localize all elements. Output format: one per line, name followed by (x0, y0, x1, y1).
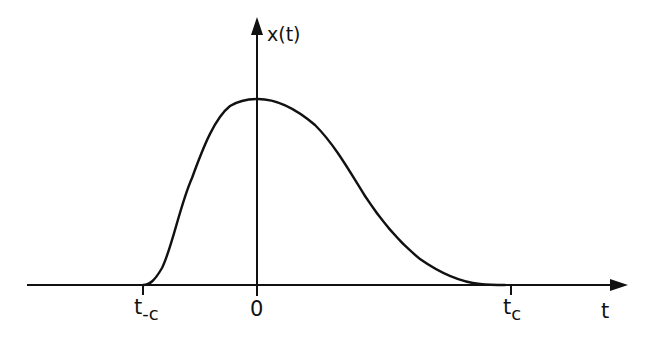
tick-label-zero: 0 (250, 297, 263, 321)
tick-label-t-neg-c: t-c (134, 295, 159, 324)
pulse-curve (143, 99, 505, 285)
vertical-axis-label: x(t) (267, 23, 301, 45)
horizontal-axis-label: t (601, 299, 609, 323)
x-axis-arrow-icon (251, 17, 263, 35)
t-axis-arrow-icon (610, 279, 628, 291)
pulse-diagram: x(t) t t-c 0 tc (0, 0, 645, 346)
tick-label-t-c: tc (503, 295, 521, 324)
